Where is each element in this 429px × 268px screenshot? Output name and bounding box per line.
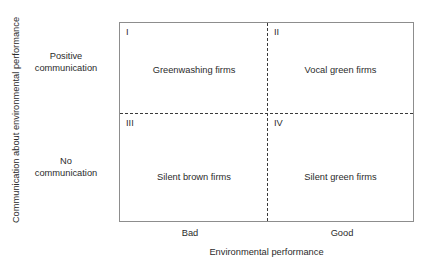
y-axis-category-none-line1: No — [18, 155, 114, 167]
y-axis-title: Communication about environmental perfor… — [9, 4, 23, 236]
matrix-figure: Communication about environmental perfor… — [0, 0, 429, 268]
quadrant-i-numeral: I — [126, 27, 129, 38]
quadrant-iv-numeral: IV — [274, 118, 283, 129]
quadrant-iv: IV Silent green firms — [268, 114, 413, 221]
y-axis-category-positive-line1: Positive — [18, 50, 114, 62]
quadrant-i: I Greenwashing firms — [120, 23, 268, 114]
quadrant-ii: II Vocal green firms — [268, 23, 413, 114]
quadrant-iii-label: Silent brown firms — [120, 172, 268, 182]
quadrant-iii: III Silent brown firms — [120, 114, 268, 221]
y-axis-category-none: No communication — [18, 155, 114, 180]
quadrant-ii-label: Vocal green firms — [268, 65, 413, 75]
y-axis-category-positive: Positive communication — [18, 50, 114, 75]
quadrant-ii-numeral: II — [274, 27, 279, 38]
quadrant-iii-numeral: III — [126, 118, 134, 129]
quadrant-i-label: Greenwashing firms — [120, 65, 268, 75]
x-axis-tick-bad: Bad — [145, 228, 235, 239]
quadrant-iv-label: Silent green firms — [268, 172, 413, 182]
y-axis-category-none-line2: communication — [18, 167, 114, 179]
x-axis-tick-good: Good — [297, 228, 387, 239]
plot-area: I Greenwashing firms II Vocal green firm… — [119, 22, 414, 222]
x-axis-title: Environmental performance — [119, 247, 414, 258]
y-axis-category-positive-line2: communication — [18, 62, 114, 74]
